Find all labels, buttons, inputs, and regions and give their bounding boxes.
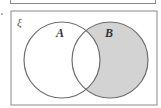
universal-set-symbol: ξ <box>17 16 22 29</box>
venn-diagram: ξ A B <box>0 0 161 108</box>
set-b-label: B <box>104 26 113 40</box>
set-a-label: A <box>55 26 64 40</box>
